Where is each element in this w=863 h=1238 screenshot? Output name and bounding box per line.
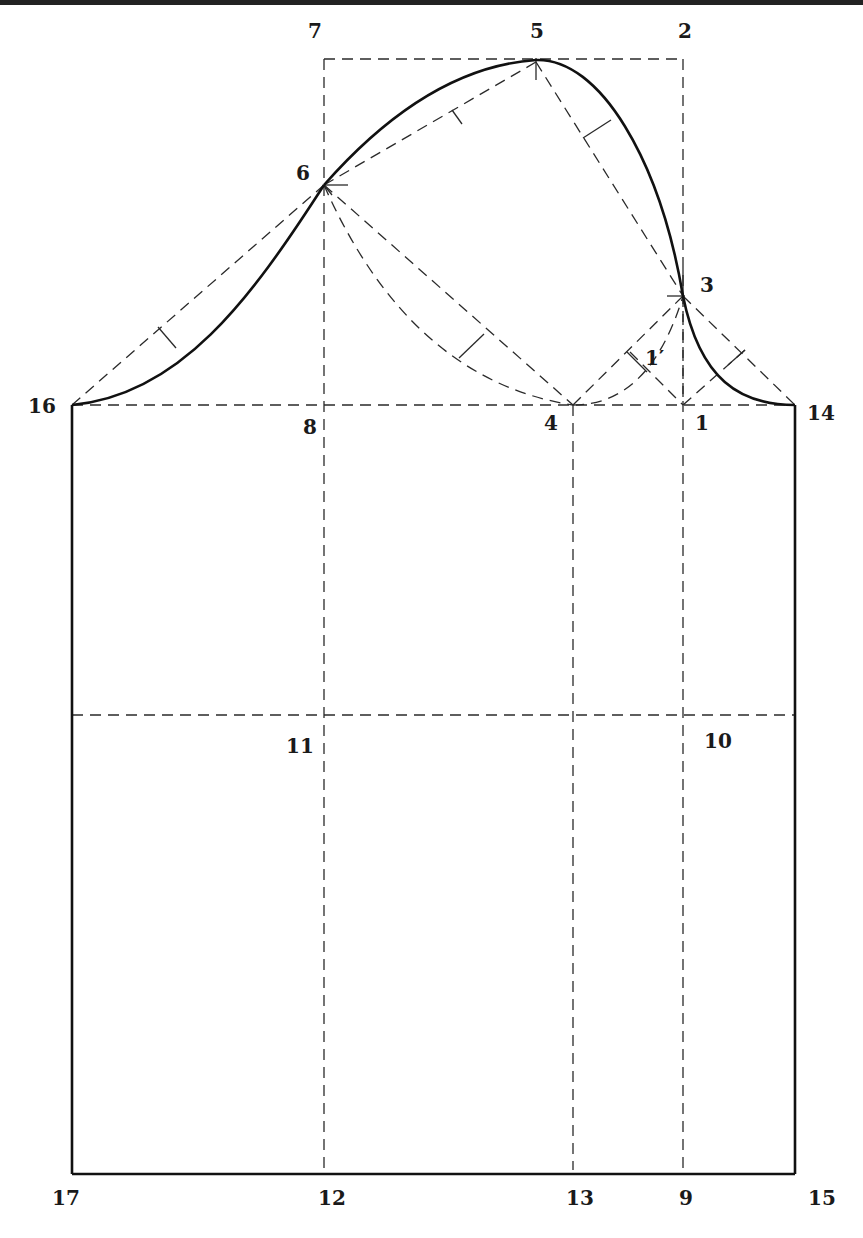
point-labels: 7 5 2 6 3 1′ 16 8 4 1 14 11 10 17 12 13 … xyxy=(28,19,836,1210)
label-1prime: 1′ xyxy=(645,346,664,370)
tick-4-3 xyxy=(627,352,647,372)
tick-6-4 xyxy=(459,334,484,358)
label-1: 1 xyxy=(695,411,709,435)
label-17: 17 xyxy=(52,1186,80,1210)
tick-6-5 xyxy=(452,110,462,124)
top-border xyxy=(0,0,863,5)
guide-6-4 xyxy=(324,185,573,405)
guide-6-5 xyxy=(324,62,536,185)
guide-4-3 xyxy=(573,296,683,405)
sleeve-outline xyxy=(72,60,795,1174)
label-9: 9 xyxy=(679,1186,693,1210)
label-7: 7 xyxy=(308,19,322,43)
label-12: 12 xyxy=(318,1186,346,1210)
tick-5-3 xyxy=(583,120,611,138)
label-15: 15 xyxy=(808,1186,836,1210)
guide-16-6 xyxy=(72,185,324,405)
label-13: 13 xyxy=(566,1186,594,1210)
label-16: 16 xyxy=(28,394,56,418)
label-3: 3 xyxy=(700,273,714,297)
label-11: 11 xyxy=(286,734,314,758)
sleeve-pattern-diagram: 7 5 2 6 3 1′ 16 8 4 1 14 11 10 17 12 13 … xyxy=(0,0,863,1238)
label-14: 14 xyxy=(807,401,835,425)
construction-lines xyxy=(72,59,795,1170)
label-8: 8 xyxy=(303,415,317,439)
guide-5-3 xyxy=(536,62,683,296)
label-4: 4 xyxy=(544,411,558,435)
label-6: 6 xyxy=(296,161,310,185)
label-10: 10 xyxy=(704,729,732,753)
perpendicular-ticks xyxy=(158,58,745,372)
tick-3-14 xyxy=(728,350,745,365)
tick-16-6 xyxy=(158,327,176,348)
label-2: 2 xyxy=(678,19,692,43)
label-5: 5 xyxy=(530,19,544,43)
